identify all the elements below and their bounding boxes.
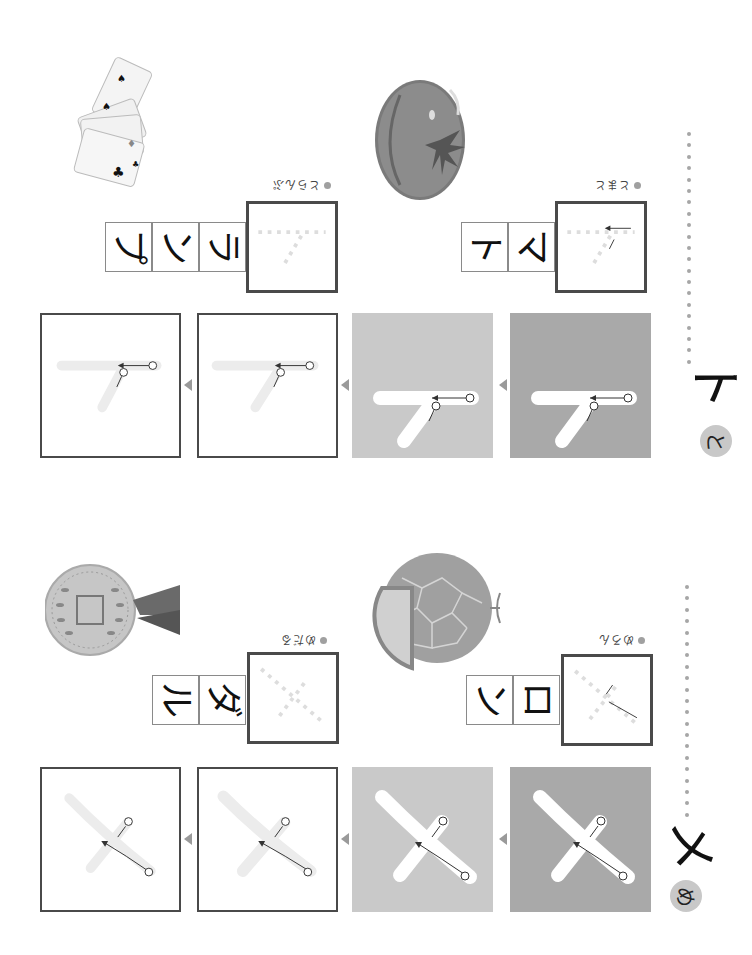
- bullet-dot-icon: [320, 638, 327, 645]
- trace-guide-icon: [558, 204, 644, 290]
- stroke-panel-to-3[interactable]: [197, 313, 338, 458]
- katakana-header-me: メ: [665, 820, 717, 872]
- medal-illustration: [45, 560, 185, 660]
- word-tile: ダ: [199, 675, 246, 725]
- stroke-order-diagram-icon: [510, 313, 651, 458]
- trace-box-melon[interactable]: [561, 654, 653, 746]
- melon-illustration: [372, 548, 502, 678]
- stroke-panel-me-3[interactable]: [197, 767, 338, 912]
- svg-text:♣: ♣: [112, 164, 125, 180]
- word-tile: ト: [461, 222, 508, 272]
- word-tile: ラ: [199, 222, 246, 272]
- trace-box-tomato[interactable]: [555, 201, 647, 293]
- stroke-panel-me-2: [352, 767, 493, 912]
- stroke-order-diagram-icon: [352, 313, 493, 458]
- step-arrow-icon: [184, 833, 192, 845]
- svg-text:♠: ♠: [117, 73, 126, 84]
- word-tile: マ: [508, 222, 555, 272]
- stroke-order-diagram-icon: [42, 769, 179, 910]
- svg-text:♣: ♣: [132, 160, 139, 169]
- trace-guide-icon: [249, 204, 335, 290]
- stroke-order-diagram-icon: [42, 315, 179, 456]
- step-arrow-icon: [341, 833, 349, 845]
- svg-text:♠: ♠: [102, 101, 111, 112]
- stroke-order-diagram-icon: [199, 315, 336, 456]
- word-tile: ル: [152, 675, 199, 725]
- playing-cards-illustration: ♠ ♠ ♦ ♣ ♣: [62, 52, 162, 202]
- stroke-order-diagram-icon: [352, 767, 493, 912]
- hiragana-me: め: [672, 886, 701, 906]
- word-tile: ン: [152, 222, 199, 272]
- stroke-panel-to-1: [510, 313, 651, 458]
- bullet-dot-icon: [634, 183, 641, 190]
- trace-guide-icon: [250, 655, 336, 741]
- dotted-divider-me: [685, 585, 689, 824]
- trace-box-cards[interactable]: [246, 201, 338, 293]
- step-arrow-icon: [499, 379, 507, 391]
- reading-label-melon: めろん: [598, 633, 645, 649]
- word-tile: ン: [466, 675, 513, 725]
- reading-label-tomato: とまと: [594, 178, 641, 194]
- stroke-panel-to-2: [352, 313, 493, 458]
- bullet-dot-icon: [324, 183, 331, 190]
- hiragana-circle-me: め: [670, 880, 702, 912]
- stroke-order-diagram-icon: [510, 767, 651, 912]
- stroke-panel-me-1: [510, 767, 651, 912]
- step-arrow-icon: [499, 833, 507, 845]
- katakana-header-to: ト: [688, 358, 740, 410]
- dotted-divider-to: [687, 132, 691, 371]
- hiragana-circle-to: と: [700, 425, 732, 457]
- reading-label-cards: とらんぷ: [272, 178, 331, 194]
- tomato-illustration: [370, 75, 470, 205]
- step-arrow-icon: [341, 379, 349, 391]
- stroke-panel-me-4[interactable]: [40, 767, 181, 912]
- bullet-dot-icon: [638, 638, 645, 645]
- word-tile: ロ: [513, 675, 560, 725]
- svg-text:♦: ♦: [127, 138, 136, 149]
- stroke-order-diagram-icon: [199, 769, 336, 910]
- trace-box-medal[interactable]: [247, 652, 339, 744]
- stroke-panel-to-4[interactable]: [40, 313, 181, 458]
- reading-label-medal: めだる: [280, 633, 327, 649]
- word-tile: プ: [105, 222, 152, 272]
- hiragana-to: と: [702, 431, 731, 451]
- trace-guide-icon: [564, 657, 650, 743]
- step-arrow-icon: [184, 379, 192, 391]
